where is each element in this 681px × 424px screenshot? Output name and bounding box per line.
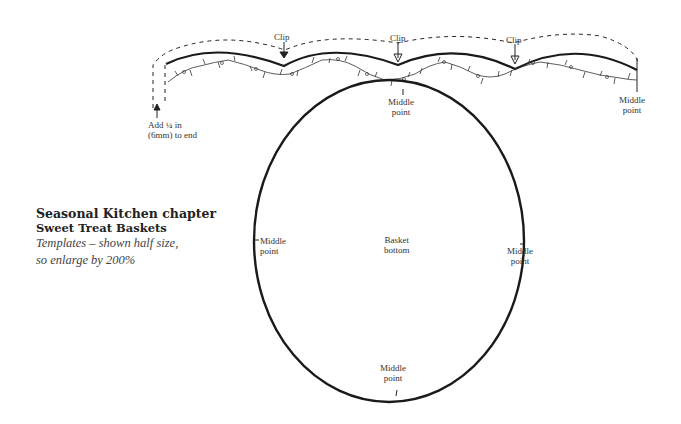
middle-point-label-circle-left: Middle point <box>260 236 286 256</box>
middle-point-tick-bottom <box>396 390 397 396</box>
label-line: point <box>507 256 533 266</box>
middle-point-label-circle-bottom: Middle point <box>380 363 406 383</box>
add-arrow-icon <box>154 104 160 118</box>
middle-point-label-circle-right: Middle point <box>507 246 533 266</box>
clip-label-3: Clip <box>506 35 522 45</box>
clip-label-1: Clip <box>274 32 290 42</box>
middle-point-label-strip-right: Middle point <box>619 95 645 115</box>
label-line: point <box>619 105 645 115</box>
project-title: Sweet Treat Baskets <box>36 221 216 235</box>
chapter-title: Seasonal Kitchen chapter <box>36 206 216 221</box>
add-label-line2: (6mm) to end <box>148 130 197 140</box>
label-line: point <box>260 246 286 256</box>
label-line: Middle <box>619 95 645 105</box>
label-line: Middle <box>388 97 414 107</box>
label-line: point <box>380 373 406 383</box>
title-block: Seasonal Kitchen chapter Sweet Treat Bas… <box>36 206 216 269</box>
vine-flowers <box>183 58 609 81</box>
label-line: Middle <box>260 236 286 246</box>
clip-label-2: Clip <box>390 33 406 43</box>
basket-bottom-label: Basket bottom <box>384 235 410 255</box>
template-note-line2: so enlarge by 200% <box>36 252 216 269</box>
middle-point-label-strip-center: Middle point <box>388 97 414 117</box>
clip-arrow-icons <box>280 42 519 64</box>
label-line: bottom <box>384 245 410 255</box>
label-line: point <box>388 107 414 117</box>
label-line: Basket <box>384 235 410 245</box>
add-label-line1: Add ¼ in <box>148 120 197 130</box>
label-line: Middle <box>380 363 406 373</box>
add-quarter-inch-label: Add ¼ in (6mm) to end <box>148 120 197 140</box>
template-note-line1: Templates – shown half size, <box>36 235 216 252</box>
label-line: Middle <box>507 246 533 256</box>
